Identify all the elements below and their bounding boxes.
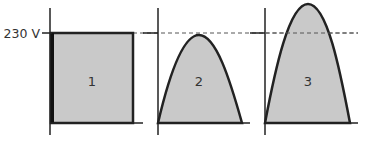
panel-1: 1	[42, 8, 143, 135]
voltage-diagram: 1 230 V 2 3	[0, 0, 368, 143]
panel-label-3: 3	[304, 74, 312, 89]
panel-label-1: 1	[88, 74, 96, 89]
arch-shape	[265, 4, 350, 123]
voltage-label: 230 V	[4, 26, 41, 41]
panel-label-2: 2	[195, 74, 203, 89]
panel-3: 3	[250, 4, 358, 135]
panel-2: 2	[143, 8, 250, 135]
